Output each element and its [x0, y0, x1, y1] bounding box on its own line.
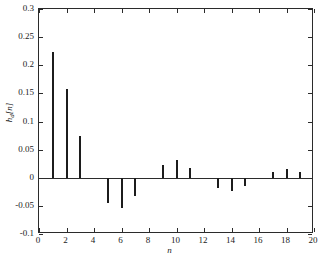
- y-tick-label: 0.3: [2, 4, 34, 13]
- x-tick-mark: [287, 9, 288, 13]
- stem-bar: [134, 178, 136, 197]
- x-tick-mark: [204, 9, 205, 13]
- stem-bar: [189, 168, 191, 178]
- y-tick-mark: [308, 206, 312, 207]
- x-tick-mark: [39, 228, 40, 232]
- x-tick-label: 10: [161, 235, 191, 245]
- y-tick-mark: [39, 65, 43, 66]
- x-tick-mark: [232, 9, 233, 13]
- y-tick-mark: [308, 65, 312, 66]
- x-tick-mark: [94, 228, 95, 232]
- x-tick-label: 8: [133, 235, 163, 245]
- y-axis-title-tail: [n]: [4, 103, 14, 115]
- stem-bar: [272, 172, 274, 178]
- stem-bar: [231, 178, 233, 191]
- y-tick-mark: [39, 9, 43, 10]
- stem-bar: [162, 165, 164, 178]
- figure-container: hd[n] 0.30.250.20.150.10.050-0.05-0.1 02…: [0, 0, 325, 266]
- x-tick-mark: [204, 228, 205, 232]
- x-tick-mark: [259, 9, 260, 13]
- y-tick-mark: [39, 150, 43, 151]
- x-tick-label: 4: [78, 235, 108, 245]
- y-tick-mark: [308, 93, 312, 94]
- y-tick-mark: [308, 150, 312, 151]
- y-tick-label: -0.05: [2, 201, 34, 210]
- x-tick-mark: [122, 9, 123, 13]
- y-tick-mark: [308, 122, 312, 123]
- y-tick-mark: [39, 93, 43, 94]
- x-tick-mark: [232, 228, 233, 232]
- x-tick-mark: [177, 228, 178, 232]
- stem-bar: [52, 52, 54, 178]
- x-tick-label: 16: [243, 235, 273, 245]
- x-tick-mark: [287, 228, 288, 232]
- stem-bar: [66, 89, 68, 178]
- x-tick-mark: [122, 228, 123, 232]
- x-tick-mark: [314, 228, 315, 232]
- y-tick-mark: [39, 37, 43, 38]
- stem-bar: [286, 169, 288, 178]
- x-tick-mark: [67, 228, 68, 232]
- x-tick-mark: [259, 228, 260, 232]
- x-axis-title: n: [0, 245, 325, 255]
- y-tick-label: 0.15: [2, 88, 34, 97]
- x-tick-mark: [149, 228, 150, 232]
- stem-bar: [217, 178, 219, 188]
- stem-bar: [299, 172, 301, 178]
- x-tick-label: 0: [23, 235, 53, 245]
- x-tick-mark: [94, 9, 95, 13]
- y-tick-label: 0: [2, 173, 34, 182]
- y-tick-label: 0.2: [2, 60, 34, 69]
- x-tick-mark: [149, 9, 150, 13]
- y-tick-mark: [308, 9, 312, 10]
- y-tick-label: 0.25: [2, 32, 34, 41]
- zero-axis-line: [39, 178, 312, 179]
- x-tick-mark: [67, 9, 68, 13]
- x-tick-label: 14: [216, 235, 246, 245]
- stem-bar: [79, 136, 81, 178]
- y-tick-mark: [39, 206, 43, 207]
- stem-bar: [107, 178, 109, 203]
- y-tick-mark: [308, 178, 312, 179]
- x-tick-mark: [314, 9, 315, 13]
- x-tick-label: 20: [298, 235, 325, 245]
- x-axis-title-text: n: [153, 245, 172, 255]
- y-tick-label: 0.05: [2, 145, 34, 154]
- y-tick-label: 0.1: [2, 117, 34, 126]
- stem-bar: [176, 160, 178, 177]
- stem-bar: [121, 178, 123, 208]
- stem-bar: [244, 178, 246, 186]
- y-tick-mark: [39, 122, 43, 123]
- y-tick-mark: [39, 178, 43, 179]
- x-tick-mark: [177, 9, 178, 13]
- x-tick-label: 18: [271, 235, 301, 245]
- plot-area: [38, 8, 313, 233]
- x-tick-label: 2: [51, 235, 81, 245]
- x-tick-label: 6: [106, 235, 136, 245]
- x-tick-label: 12: [188, 235, 218, 245]
- y-tick-mark: [308, 37, 312, 38]
